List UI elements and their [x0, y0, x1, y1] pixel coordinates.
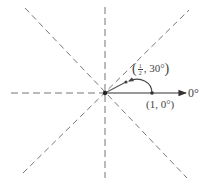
- point-label-half-30: (12, 30°): [132, 62, 169, 76]
- origin-point: [103, 91, 107, 95]
- fraction-numerator: 1: [138, 63, 143, 70]
- fraction-one-half: 12: [138, 63, 143, 76]
- axis-label-0-degrees: 0°: [188, 87, 199, 99]
- segment-half-30: [105, 82, 126, 93]
- label-close-paren: ): [165, 61, 170, 76]
- point-half-30: [124, 80, 127, 83]
- point-1-0: [150, 91, 154, 95]
- rotation-arc: [129, 79, 152, 93]
- fraction-denominator: 2: [139, 70, 142, 76]
- label-open-paren: (: [132, 61, 137, 76]
- label-theta: , 30°: [144, 62, 165, 74]
- polar-diagram: [0, 0, 205, 189]
- point-label-1-0: (1, 0°): [146, 99, 174, 110]
